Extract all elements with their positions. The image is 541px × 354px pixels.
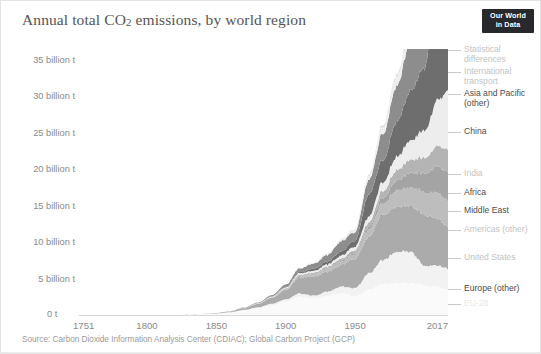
x-axis-line	[79, 315, 448, 316]
legend-connector-line	[448, 174, 461, 175]
legend-item-india[interactable]: India	[448, 169, 483, 179]
legend-label: India	[464, 169, 483, 179]
y-axis-tick: 25 billion t	[33, 128, 75, 138]
legend-label: Asia and Pacific (other)	[464, 89, 525, 108]
legend-item-united-states[interactable]: United States	[448, 253, 516, 263]
legend-item-americas-other[interactable]: Americas (other)	[448, 225, 528, 235]
y-axis-tick: 30 billion t	[33, 91, 75, 101]
y-axis-tick: 15 billion t	[33, 201, 75, 211]
x-axis-tick: 1950	[344, 320, 365, 331]
x-axis-tick: 1900	[275, 320, 296, 331]
y-axis-tick: 20 billion t	[33, 164, 75, 174]
y-axis-tick: 35 billion t	[33, 55, 75, 65]
stacked-area-svg	[79, 49, 448, 315]
legend-label: United States	[464, 253, 516, 263]
legend-label: Americas (other)	[464, 225, 528, 235]
legend-connector-line	[448, 304, 461, 305]
legend-label: Africa	[464, 188, 486, 198]
owid-logo: Our World in Data	[482, 9, 534, 33]
legend-connector-line	[448, 50, 461, 51]
plot-area	[79, 49, 448, 315]
x-axis-tick: 1800	[136, 320, 157, 331]
owid-logo-line2: in Data	[496, 21, 521, 30]
legend-label: Middle East	[464, 206, 509, 216]
legend-label: International transport	[464, 67, 511, 86]
legend-item-middle-east[interactable]: Middle East	[448, 206, 509, 216]
legend-item-statistical-differences[interactable]: Statistical differences	[448, 45, 506, 64]
legend-connector-line	[448, 211, 461, 212]
legend-connector-line	[448, 132, 461, 133]
chart-container: Annual total CO2 emissions, by world reg…	[0, 0, 541, 354]
legend-connector-line	[448, 193, 461, 194]
y-tick-zero: 0 t	[47, 309, 57, 319]
legend-item-international-transport[interactable]: International transport	[448, 67, 511, 86]
source-note: Source: Carbon Dioxide Information Analy…	[22, 335, 355, 344]
legend-label: China	[464, 127, 486, 137]
legend-item-europe-other[interactable]: Europe (other)	[448, 284, 519, 294]
legend-connector-line	[448, 94, 461, 95]
area-band-eu-28	[79, 282, 448, 315]
legend-connector-line	[448, 230, 461, 231]
legend-connector-line	[448, 289, 461, 290]
legend-item-china[interactable]: China	[448, 127, 486, 137]
bottom-divider	[1, 352, 540, 353]
legend-item-asia-and-pacific-other[interactable]: Asia and Pacific (other)	[448, 89, 525, 108]
legend-connector-line	[448, 72, 461, 73]
y-axis-tick: 5 billion t	[38, 274, 75, 284]
legend-label: Europe (other)	[464, 284, 519, 294]
x-axis-tick: 1850	[206, 320, 227, 331]
legend-label: Statistical differences	[464, 45, 506, 64]
legend-item-eu-28[interactable]: EU-28	[448, 299, 488, 309]
y-axis-tick: 10 billion t	[33, 237, 75, 247]
legend-item-africa[interactable]: Africa	[448, 188, 486, 198]
legend-label: EU-28	[464, 299, 488, 309]
x-axis-tick: 2017	[427, 320, 448, 331]
title-text-rest: emissions, by world region	[132, 11, 306, 28]
chart-legend: Statistical differencesInternational tra…	[448, 45, 541, 320]
x-axis-tick: 1751	[73, 320, 94, 331]
legend-connector-line	[448, 258, 461, 259]
y-axis: 5 billion t10 billion t15 billion t20 bi…	[1, 1, 75, 354]
